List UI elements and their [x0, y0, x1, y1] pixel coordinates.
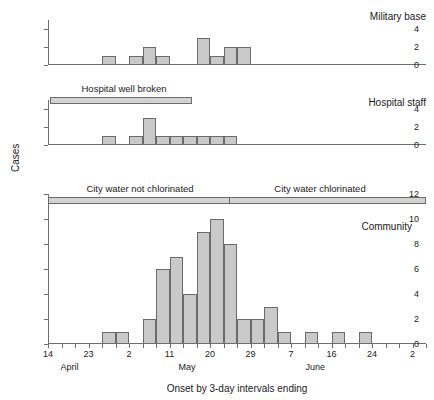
- x-tick-label: 23: [83, 350, 93, 359]
- x-tick: [89, 344, 90, 348]
- x-tick: [426, 344, 427, 348]
- bar: [183, 294, 197, 344]
- x-tick: [48, 344, 49, 348]
- y-tick: [44, 194, 48, 195]
- annotation-label-not-chlorinated: City water not chlorinated: [86, 184, 193, 194]
- x-tick: [372, 344, 373, 348]
- bar: [224, 47, 238, 65]
- panel-military-base: 024 Military base: [0, 12, 434, 70]
- x-tick-label: 2: [410, 350, 415, 359]
- x-tick: [210, 344, 211, 348]
- y-tick-label: 2: [414, 43, 419, 52]
- panel-caption-community: Community: [361, 222, 412, 232]
- x-tick-label: 7: [288, 350, 293, 359]
- x-tick-label: 16: [326, 350, 336, 359]
- y-tick: [44, 145, 48, 146]
- plot-area-community: 02468101214232112029716242AprilMayJune: [48, 194, 426, 344]
- x-tick-label: 2: [126, 350, 131, 359]
- panel-caption-hospital: Hospital staff: [368, 98, 426, 108]
- x-tick: [170, 344, 171, 348]
- x-tick: [251, 344, 252, 348]
- x-tick: [183, 344, 184, 348]
- x-month-label: June: [306, 363, 326, 372]
- bars-military: [48, 20, 426, 65]
- bar: [237, 47, 251, 65]
- y-tick-label: 8: [414, 240, 419, 249]
- y-tick-label: 4: [414, 25, 419, 34]
- panel-community: City water not chlorinated City water ch…: [0, 184, 434, 359]
- x-axis-hospital: [48, 144, 426, 145]
- y-tick: [44, 47, 48, 48]
- x-tick-label: 29: [245, 350, 255, 359]
- bar: [170, 257, 184, 345]
- bar: [197, 38, 211, 65]
- x-month-label: May: [179, 363, 196, 372]
- y-tick: [44, 294, 48, 295]
- x-axis-title: Onset by 3-day intervals ending: [167, 383, 308, 394]
- bar: [210, 219, 224, 344]
- y-tick-label: 12: [409, 190, 419, 199]
- annotation-label-hospital-well: Hospital well broken: [81, 84, 166, 94]
- y-tick: [44, 65, 48, 66]
- x-tick: [386, 344, 387, 348]
- bar: [251, 319, 265, 344]
- y-tick: [44, 29, 48, 30]
- x-tick: [413, 344, 414, 348]
- bar: [143, 319, 157, 344]
- bar: [143, 47, 157, 65]
- x-tick: [143, 344, 144, 348]
- bars-community: [48, 194, 426, 344]
- y-tick: [44, 244, 48, 245]
- x-tick: [224, 344, 225, 348]
- y-tick: [44, 319, 48, 320]
- y-tick-label: 6: [414, 265, 419, 274]
- annotation-label-chlorinated: City water chlorinated: [274, 184, 365, 194]
- x-month-label: April: [61, 363, 79, 372]
- y-axis-title: Cases: [10, 144, 21, 172]
- x-tick-label: 20: [205, 350, 215, 359]
- y-tick-label: 2: [414, 315, 419, 324]
- plot-area-military: 024: [48, 20, 426, 65]
- bar: [197, 232, 211, 345]
- bar: [224, 244, 238, 344]
- y-tick-label: 4: [414, 290, 419, 299]
- x-tick: [62, 344, 63, 348]
- x-tick: [102, 344, 103, 348]
- y-tick-label: 0: [414, 61, 419, 70]
- x-tick: [345, 344, 346, 348]
- y-tick: [44, 219, 48, 220]
- x-tick: [237, 344, 238, 348]
- x-tick-label: 14: [43, 350, 53, 359]
- x-tick: [399, 344, 400, 348]
- y-axis-military: [48, 20, 49, 65]
- x-tick: [116, 344, 117, 348]
- x-tick-label: 11: [165, 350, 174, 359]
- x-tick: [75, 344, 76, 348]
- x-tick: [197, 344, 198, 348]
- x-axis-military: [48, 64, 426, 65]
- y-tick-label: 2: [414, 123, 419, 132]
- x-tick: [318, 344, 319, 348]
- x-tick: [278, 344, 279, 348]
- panel-caption-military: Military base: [370, 12, 426, 22]
- y-axis-community: [48, 194, 49, 344]
- x-tick: [129, 344, 130, 348]
- x-tick: [332, 344, 333, 348]
- bar: [264, 307, 278, 345]
- x-tick: [291, 344, 292, 348]
- bar: [143, 118, 157, 145]
- y-tick-label: 0: [414, 340, 419, 349]
- x-tick: [156, 344, 157, 348]
- y-tick: [44, 127, 48, 128]
- x-tick: [359, 344, 360, 348]
- y-tick: [44, 109, 48, 110]
- y-axis-hospital: [48, 100, 49, 145]
- bar: [156, 269, 170, 344]
- x-tick: [305, 344, 306, 348]
- x-tick: [264, 344, 265, 348]
- x-tick-label: 24: [367, 350, 377, 359]
- bar: [237, 319, 251, 344]
- y-tick-label: 0: [414, 141, 419, 150]
- panel-hospital-staff: Hospital well broken 024 Hospital staff: [0, 84, 434, 146]
- y-tick: [44, 269, 48, 270]
